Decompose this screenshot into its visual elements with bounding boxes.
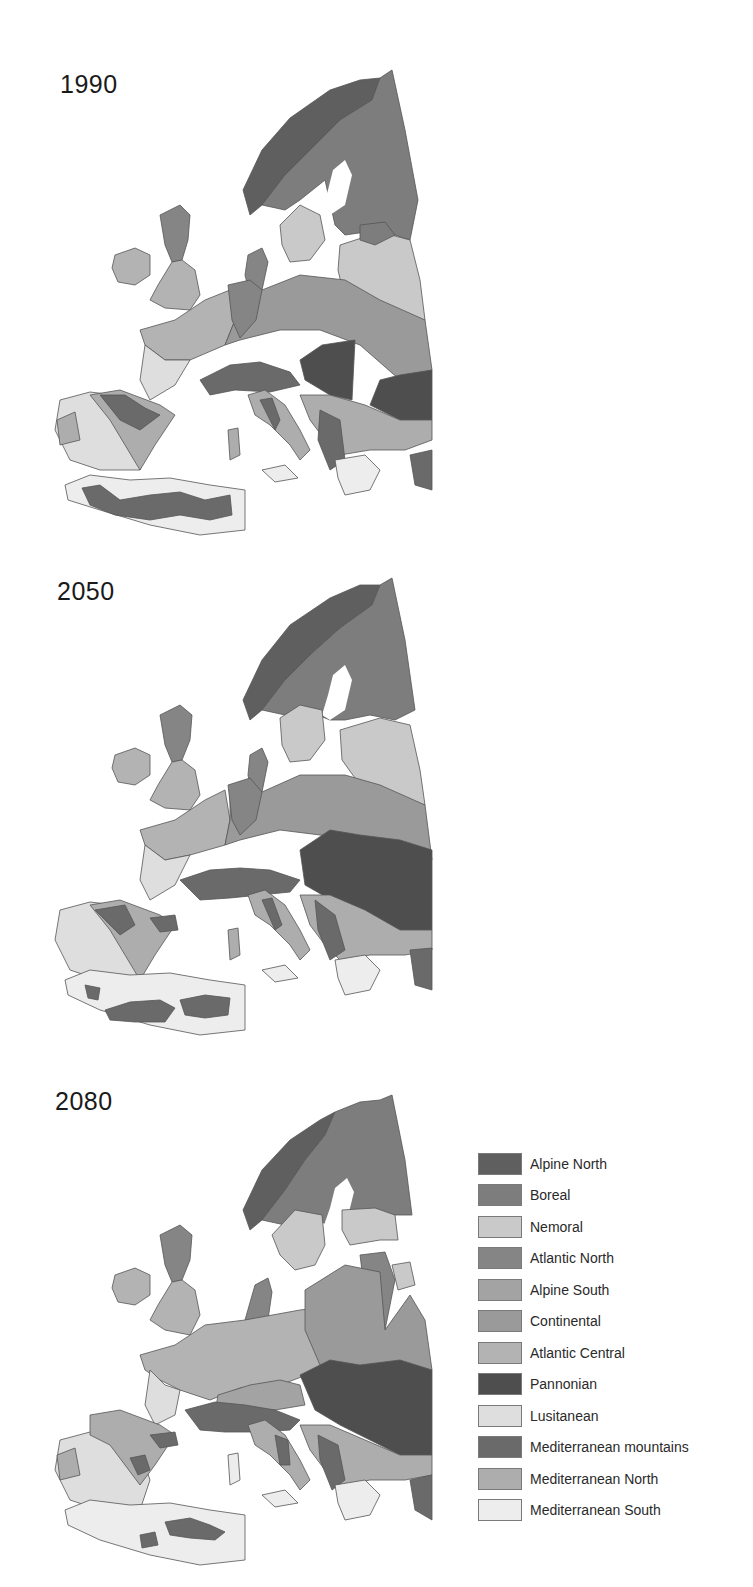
legend-label: Mediterranean North [530,1471,658,1487]
map-panel-2050: 2050 [0,530,470,1050]
legend-item-pannonian: Pannonian [478,1369,753,1401]
europe-map-1990 [0,0,470,560]
legend-item-alpine-north: Alpine North [478,1148,753,1180]
legend-swatch [478,1405,522,1427]
legend-label: Lusitanean [530,1408,599,1424]
legend-label: Boreal [530,1187,570,1203]
legend-label: Alpine South [530,1282,609,1298]
legend-item-lusitanean: Lusitanean [478,1400,753,1432]
legend-item-mediterranean-mountains: Mediterranean mountains [478,1432,753,1464]
legend-item-continental: Continental [478,1306,753,1338]
map-panel-2080: 2080 [0,1040,470,1587]
legend-item-mediterranean-north: Mediterranean North [478,1463,753,1495]
legend-swatch [478,1247,522,1269]
legend-item-nemoral: Nemoral [478,1211,753,1243]
legend-item-atlantic-north: Atlantic North [478,1243,753,1275]
legend-swatch [478,1310,522,1332]
legend-swatch [478,1279,522,1301]
legend-swatch [478,1468,522,1490]
map-panel-1990: 1990 [0,0,470,560]
legend-item-alpine-south: Alpine South [478,1274,753,1306]
legend-label: Mediterranean South [530,1502,661,1518]
legend-swatch [478,1342,522,1364]
legend-label: Mediterranean mountains [530,1439,689,1455]
legend-swatch [478,1499,522,1521]
legend-swatch [478,1153,522,1175]
legend-label: Atlantic Central [530,1345,625,1361]
legend-label: Nemoral [530,1219,583,1235]
europe-map-2080 [0,1040,470,1587]
legend-label: Atlantic North [530,1250,614,1266]
legend-item-atlantic-central: Atlantic Central [478,1337,753,1369]
legend-label: Alpine North [530,1156,607,1172]
legend: Alpine North Boreal Nemoral Atlantic Nor… [478,1148,753,1526]
legend-label: Pannonian [530,1376,597,1392]
legend-swatch [478,1436,522,1458]
legend-item-boreal: Boreal [478,1180,753,1212]
legend-swatch [478,1373,522,1395]
europe-map-2050 [0,530,470,1050]
legend-item-mediterranean-south: Mediterranean South [478,1495,753,1527]
legend-swatch [478,1184,522,1206]
legend-swatch [478,1216,522,1238]
legend-label: Continental [530,1313,601,1329]
